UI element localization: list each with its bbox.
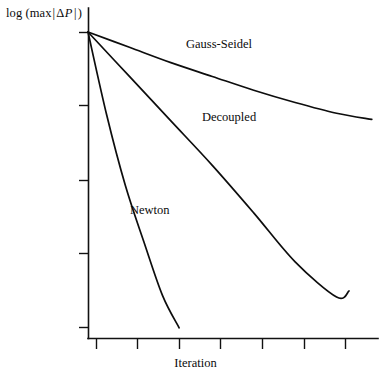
x-axis-label: Iteration — [0, 357, 391, 370]
series-label-decoupled: Decoupled — [202, 111, 256, 124]
convergence-chart-figure: log (max|ΔP|) Iteration Gauss-Seidel Dec… — [0, 0, 391, 379]
series-label-gauss-seidel: Gauss-Seidel — [186, 38, 252, 51]
y-axis-label-variable: P — [64, 6, 73, 20]
y-axis-label: log (max|ΔP|) — [6, 7, 82, 20]
series-curve-decoupled — [88, 32, 349, 298]
y-axis-ticks — [79, 33, 88, 328]
chart-series-group — [88, 32, 372, 328]
series-label-newton: Newton — [130, 204, 170, 217]
series-curve-newton — [88, 32, 179, 328]
y-axis-label-suffix: ) — [78, 6, 82, 20]
y-axis-label-prefix: log (max — [6, 6, 52, 20]
x-axis-ticks — [97, 339, 346, 349]
chart-plot-area — [0, 0, 391, 379]
